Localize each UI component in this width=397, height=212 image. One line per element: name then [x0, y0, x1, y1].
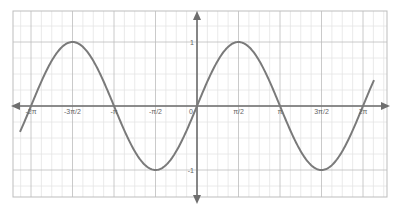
grid-minor — [13, 11, 387, 197]
x-tick-label: π — [278, 108, 283, 115]
x-tick-label: 2π — [359, 108, 368, 115]
x-tick-label: -π/2 — [149, 108, 162, 115]
y-tick-label: 1 — [190, 39, 194, 46]
grid-major — [13, 11, 387, 197]
y-axis-down-arrow-icon — [193, 195, 201, 204]
y-axis-up-arrow-icon — [193, 11, 201, 20]
x-tick-label: π/2 — [233, 108, 244, 115]
x-tick-label: -3π/2 — [64, 108, 81, 115]
x-tick-label: 3π/2 — [314, 108, 329, 115]
sine-chart: -2π-3π/2-π-π/20π/2π3π/22π1-1 — [0, 0, 397, 212]
x-axis-left-arrow-icon — [11, 102, 20, 110]
x-axis-right-arrow-icon — [381, 102, 390, 110]
x-tick-label: -π — [110, 108, 117, 115]
y-tick-label: -1 — [188, 167, 194, 174]
x-tick-label: 0 — [189, 108, 193, 115]
x-tick-label: -2π — [25, 108, 36, 115]
plot-frame — [13, 11, 387, 197]
